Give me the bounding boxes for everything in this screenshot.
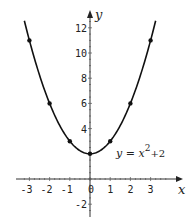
y-tick-label: 10: [75, 48, 87, 59]
data-point: [47, 101, 51, 105]
y-tick-label: 4: [81, 124, 87, 135]
x-tick-label: 3: [148, 184, 154, 195]
plot-container: -3-2-10123-24681012xyy = x2+2: [0, 0, 190, 223]
x-tick-label: -1: [61, 184, 73, 195]
data-point: [128, 101, 132, 105]
data-point: [88, 152, 92, 156]
x-tick-label: 1: [107, 184, 113, 195]
y-axis-label: y: [94, 7, 103, 22]
data-point: [68, 139, 72, 143]
y-tick-label: -2: [75, 199, 87, 210]
x-tick-label: 0: [88, 184, 94, 195]
data-point: [27, 38, 31, 42]
equation-label: y = x2+2: [115, 143, 165, 160]
y-tick-label: 12: [75, 23, 87, 34]
x-tick-label: -3: [20, 184, 32, 195]
parabola-plot: -3-2-10123-24681012xyy = x2+2: [0, 0, 190, 223]
y-tick-label: 6: [81, 98, 87, 109]
x-tick-label: -2: [41, 184, 53, 195]
data-point: [148, 38, 152, 42]
y-axis-arrow-icon: [87, 10, 93, 18]
x-axis-label: x: [178, 182, 186, 197]
x-tick-label: 2: [127, 184, 133, 195]
data-point: [108, 139, 112, 143]
y-tick-label: 8: [81, 73, 87, 84]
